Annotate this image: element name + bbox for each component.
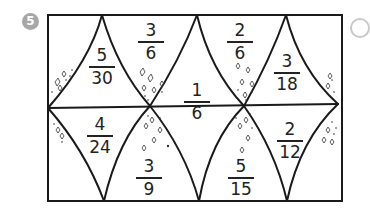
numerator: 2: [285, 119, 296, 139]
numerator: 3: [282, 51, 293, 71]
denominator: 6: [235, 43, 246, 63]
numerator: 3: [144, 156, 155, 176]
numerator: 1: [192, 80, 203, 100]
fraction-bottom-1: 4 24: [80, 116, 120, 156]
fraction-top-1: 5 30: [82, 47, 122, 87]
denominator: 18: [276, 74, 298, 94]
fraction-top-3: 2 6: [220, 22, 260, 62]
fraction-center: 1 6: [177, 82, 217, 122]
fraction-top-4: 3 18: [267, 53, 307, 93]
fraction-bottom-4: 2 12: [270, 121, 310, 161]
numerator: 4: [95, 114, 106, 134]
fraction-bottom-2: 3 9: [129, 158, 169, 198]
denominator: 15: [230, 179, 252, 199]
fraction-top-2: 3 6: [131, 22, 171, 62]
numerator: 5: [97, 45, 108, 65]
denominator: 24: [89, 137, 111, 157]
denominator: 6: [146, 43, 157, 63]
numerator: 2: [235, 20, 246, 40]
fraction-bottom-3: 5 15: [221, 158, 261, 198]
numerator: 5: [236, 156, 247, 176]
denominator: 6: [192, 103, 203, 123]
denominator: 12: [279, 142, 301, 162]
numerator: 3: [146, 20, 157, 40]
denominator: 9: [144, 179, 155, 199]
denominator: 30: [91, 68, 113, 88]
